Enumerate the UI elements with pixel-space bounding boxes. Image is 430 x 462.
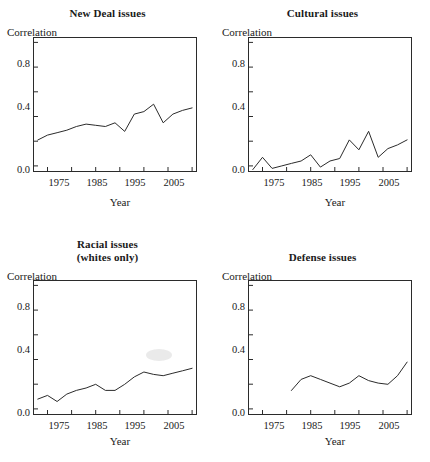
panel-title: Cultural issues [215,7,430,20]
y-tick-label-0.4: 0.4 [2,344,30,355]
x-tick-label-1985: 1985 [80,420,114,431]
y-tick-label-0.4: 0.4 [217,344,245,355]
x-axis-label: Year [260,196,410,208]
x-tick-label-1995: 1995 [118,177,152,188]
x-tick-label-2005: 2005 [157,177,191,188]
y-tick-label-0.0: 0.0 [2,407,30,418]
x-tick-label-1975: 1975 [257,177,291,188]
panel-title: Defense issues [215,251,430,264]
figure-panel-grid: New Deal issues Correlation Year 0.8 0.4… [0,0,430,462]
x-axis-label: Year [45,196,195,208]
y-tick-label-0.4: 0.4 [2,101,30,112]
y-tick-label-0.0: 0.0 [217,164,245,175]
x-tick-label-2005: 2005 [372,177,406,188]
series-line-racial [38,368,192,401]
y-tick-label-0.0: 0.0 [217,407,245,418]
panel-new-deal-issues: New Deal issues Correlation Year 0.8 0.4… [0,0,215,231]
plot-area-defense [248,280,412,415]
panel-title: New Deal issues [0,7,215,20]
x-tick-label-1985: 1985 [80,177,114,188]
series-line-defense [291,362,407,390]
y-tick-label-0.4: 0.4 [217,101,245,112]
x-tick-label-1975: 1975 [42,177,76,188]
x-tick-label-2005: 2005 [372,420,406,431]
panel-cultural-issues: Cultural issues Correlation Year 0.8 0.4… [215,0,430,231]
panel-title-line2: (whites only) [0,251,215,264]
panel-defense-issues: Defense issues Correlation Year 0.8 0.4 … [215,231,430,462]
series-line-new-deal [38,104,192,140]
x-tick-label-1995: 1995 [333,420,367,431]
x-tick-label-1985: 1985 [295,420,329,431]
scan-artifact [146,349,172,361]
x-tick-label-1995: 1995 [333,177,367,188]
y-tick-label-0.8: 0.8 [2,301,30,312]
plot-area-cultural [248,37,412,172]
x-tick-label-1995: 1995 [118,420,152,431]
plot-area-racial [33,280,197,415]
x-tick-label-2005: 2005 [157,420,191,431]
y-tick-label-0.8: 0.8 [217,301,245,312]
y-tick-label-0.0: 0.0 [2,164,30,175]
x-tick-label-1975: 1975 [257,420,291,431]
x-tick-label-1985: 1985 [295,177,329,188]
plot-area-new-deal [33,37,197,172]
x-axis-label: Year [260,435,410,447]
panel-title-line1: Racial issues [0,238,215,251]
x-tick-label-1975: 1975 [42,420,76,431]
y-tick-label-0.8: 0.8 [2,58,30,69]
series-line-cultural [253,131,407,169]
y-tick-label-0.8: 0.8 [217,58,245,69]
x-axis-label: Year [45,435,195,447]
panel-racial-issues: Racial issues (whites only) Correlation … [0,231,215,462]
